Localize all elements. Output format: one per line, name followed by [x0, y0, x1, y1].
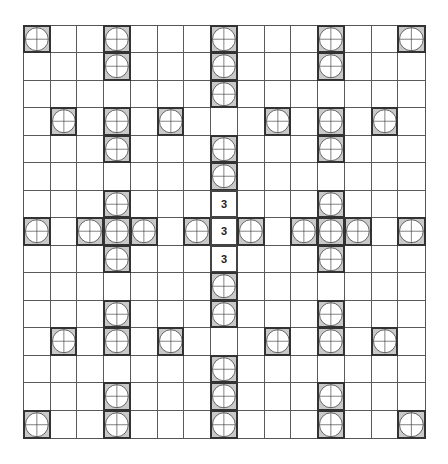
circle-crosshair-icon[interactable] [103, 217, 131, 245]
board-cell[interactable] [345, 301, 372, 328]
circle-crosshair-icon[interactable] [210, 80, 238, 108]
board-cell[interactable] [291, 328, 318, 355]
board-cell[interactable] [184, 163, 211, 190]
board-cell[interactable] [238, 411, 265, 438]
circle-crosshair-icon[interactable] [130, 217, 158, 245]
board-cell[interactable] [184, 26, 211, 53]
board-cell[interactable] [104, 356, 131, 383]
circle-crosshair-icon[interactable] [317, 217, 345, 245]
board-cell[interactable] [51, 411, 78, 438]
board-cell[interactable] [184, 108, 211, 135]
board-cell[interactable] [318, 108, 345, 135]
board-cell[interactable] [51, 356, 78, 383]
board-cell[interactable] [345, 136, 372, 163]
board-cell[interactable] [372, 81, 399, 108]
board-cell[interactable] [24, 108, 51, 135]
circle-crosshair-icon[interactable] [103, 382, 131, 410]
board-cell[interactable] [398, 328, 425, 355]
board-cell[interactable] [131, 273, 158, 300]
board-cell[interactable] [158, 246, 185, 273]
board-cell[interactable] [372, 191, 399, 218]
board-cell[interactable] [24, 356, 51, 383]
board-cell[interactable] [131, 81, 158, 108]
board-cell[interactable] [238, 246, 265, 273]
board-cell[interactable] [398, 191, 425, 218]
circle-crosshair-icon[interactable] [103, 327, 131, 355]
board-cell[interactable] [238, 191, 265, 218]
circle-crosshair-icon[interactable] [210, 52, 238, 80]
board-cell[interactable] [318, 383, 345, 410]
board-cell[interactable] [51, 191, 78, 218]
board-cell[interactable] [158, 163, 185, 190]
board-cell[interactable] [265, 163, 292, 190]
board-cell[interactable] [318, 356, 345, 383]
circle-crosshair-icon[interactable] [371, 327, 399, 355]
board-cell[interactable] [24, 328, 51, 355]
board-cell[interactable] [265, 301, 292, 328]
board-cell[interactable] [158, 136, 185, 163]
board-cell[interactable] [345, 191, 372, 218]
board-cell[interactable] [398, 26, 425, 53]
board-cell[interactable] [77, 136, 104, 163]
board-cell[interactable] [77, 328, 104, 355]
board-cell[interactable] [104, 108, 131, 135]
board-cell[interactable] [318, 411, 345, 438]
circle-crosshair-icon[interactable] [50, 107, 78, 135]
board-cell[interactable] [291, 191, 318, 218]
board-cell[interactable] [345, 273, 372, 300]
board-cell[interactable] [77, 273, 104, 300]
circle-crosshair-icon[interactable] [210, 25, 238, 53]
board-cell[interactable] [372, 26, 399, 53]
board-cell[interactable] [372, 328, 399, 355]
board-cell[interactable] [24, 301, 51, 328]
board-cell[interactable] [104, 273, 131, 300]
circle-crosshair-icon[interactable] [317, 410, 345, 439]
circle-crosshair-icon[interactable] [317, 327, 345, 355]
board-cell[interactable] [372, 273, 399, 300]
board-cell[interactable] [265, 108, 292, 135]
circle-crosshair-icon[interactable] [317, 107, 345, 135]
board-cell[interactable] [211, 411, 238, 438]
board-cell[interactable]: 3 [211, 191, 238, 218]
circle-crosshair-icon[interactable] [397, 410, 426, 439]
board-cell[interactable] [265, 81, 292, 108]
board-cell[interactable] [398, 383, 425, 410]
board-cell[interactable] [291, 53, 318, 80]
board-cell[interactable] [77, 163, 104, 190]
board-cell[interactable] [24, 163, 51, 190]
board-cell[interactable] [184, 53, 211, 80]
circle-crosshair-icon[interactable] [103, 245, 131, 273]
board-cell[interactable] [345, 26, 372, 53]
board-cell[interactable] [345, 411, 372, 438]
board-cell[interactable] [265, 246, 292, 273]
board-cell[interactable] [291, 383, 318, 410]
board-cell[interactable] [238, 136, 265, 163]
circle-crosshair-icon[interactable] [264, 327, 292, 355]
board-cell[interactable] [238, 163, 265, 190]
board-cell[interactable] [51, 273, 78, 300]
board-cell[interactable] [345, 108, 372, 135]
circle-crosshair-icon[interactable] [397, 217, 426, 245]
board-cell[interactable] [158, 328, 185, 355]
board-cell[interactable] [211, 53, 238, 80]
board-cell[interactable] [211, 273, 238, 300]
board-cell[interactable] [398, 273, 425, 300]
board-cell[interactable] [372, 301, 399, 328]
circle-crosshair-icon[interactable] [210, 162, 238, 190]
board-cell[interactable] [51, 108, 78, 135]
circle-crosshair-icon[interactable] [183, 217, 211, 245]
board-cell[interactable] [318, 81, 345, 108]
board-cell[interactable] [77, 26, 104, 53]
board-cell[interactable] [131, 328, 158, 355]
board-cell[interactable] [24, 26, 51, 53]
board-cell[interactable] [77, 53, 104, 80]
board-cell[interactable] [104, 81, 131, 108]
circle-crosshair-icon[interactable] [23, 217, 51, 245]
board-cell[interactable] [345, 328, 372, 355]
circle-crosshair-icon[interactable] [237, 217, 265, 245]
circle-crosshair-icon[interactable] [103, 52, 131, 80]
circle-crosshair-icon[interactable] [317, 52, 345, 80]
board-cell[interactable] [372, 218, 399, 245]
board-cell[interactable] [265, 328, 292, 355]
board-cell[interactable]: 3 [211, 246, 238, 273]
